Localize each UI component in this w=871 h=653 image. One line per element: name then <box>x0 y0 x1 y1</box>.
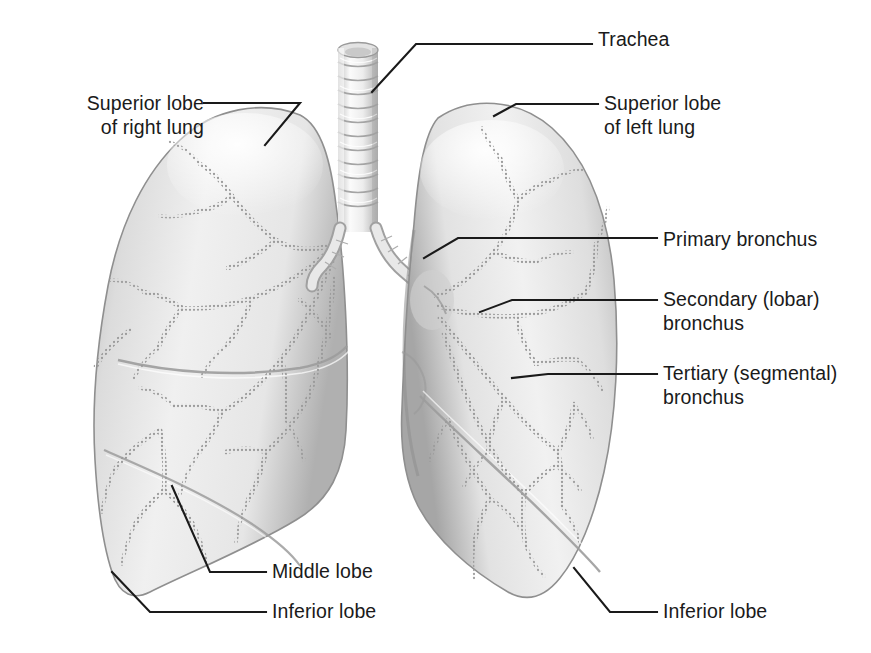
label-line: Middle lobe <box>272 560 373 582</box>
label-inferior-lobe-right: Inferior lobe <box>272 600 376 624</box>
label-superior-lobe-right: Superior lobeof right lung <box>31 92 204 139</box>
label-line: Secondary (lobar) <box>663 288 820 310</box>
label-line: Tertiary (segmental) <box>663 362 837 384</box>
label-inferior-lobe-left: Inferior lobe <box>663 600 767 624</box>
label-middle-lobe: Middle lobe <box>272 560 373 584</box>
label-tertiary-bronchus: Tertiary (segmental)bronchus <box>663 362 837 409</box>
label-line: bronchus <box>663 386 744 408</box>
label-line: Superior lobe <box>604 92 721 114</box>
label-superior-lobe-left: Superior lobeof left lung <box>604 92 721 139</box>
label-line: Inferior lobe <box>272 600 376 622</box>
label-line: of left lung <box>604 116 695 138</box>
label-line: bronchus <box>663 312 744 334</box>
figure-canvas: Superior lobeof right lung Trachea Super… <box>0 0 871 653</box>
label-primary-bronchus: Primary bronchus <box>663 228 817 252</box>
label-secondary-bronchus: Secondary (lobar)bronchus <box>663 288 820 335</box>
label-line: Trachea <box>598 28 670 50</box>
label-line: of right lung <box>101 116 204 138</box>
label-line: Primary bronchus <box>663 228 817 250</box>
label-line: Superior lobe <box>87 92 204 114</box>
label-line: Inferior lobe <box>663 600 767 622</box>
right-lung-group <box>94 108 349 596</box>
left-lung-group <box>402 103 617 597</box>
label-trachea: Trachea <box>598 28 670 52</box>
